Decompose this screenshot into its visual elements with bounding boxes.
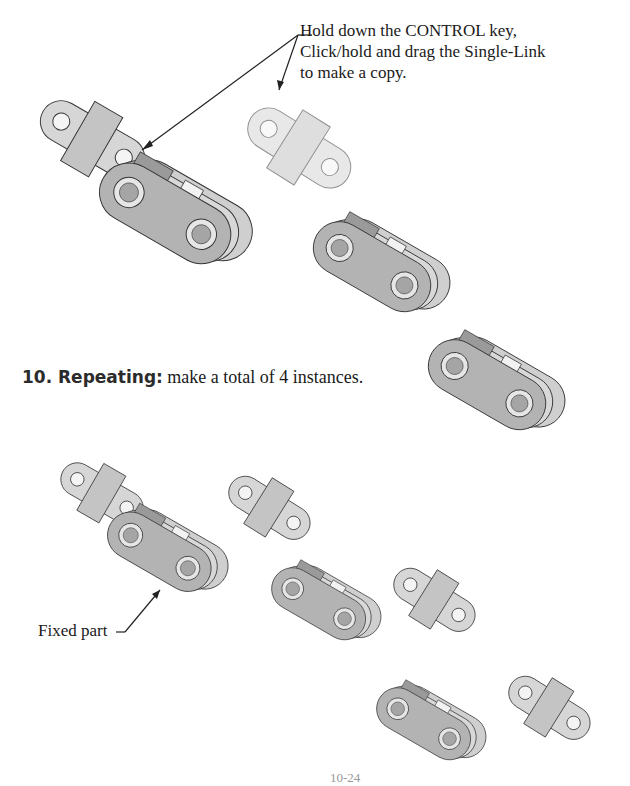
assembly-top (15, 82, 273, 284)
callout-text: Hold down the CONTROL key, Click/hold an… (300, 20, 546, 83)
fixed-part-leader (116, 590, 160, 632)
step-heading: 10. Repeating: (22, 367, 163, 387)
step-instruction: 10. Repeating: make a total of 4 instanc… (22, 367, 363, 388)
assembly-bottom-fixed (41, 448, 245, 607)
callout-line-3: to make a copy. (300, 62, 546, 83)
single-link-copy-ghost (233, 89, 366, 207)
double-link-copy-1 (304, 202, 460, 329)
double-link-instance-1 (264, 552, 389, 654)
callout-line-1: Hold down the CONTROL key, (300, 20, 546, 41)
single-link-instance-1 (217, 461, 322, 554)
single-link-instance-3 (497, 661, 602, 754)
page-number: 10-24 (330, 770, 360, 786)
fixed-part-label: Fixed part (38, 621, 107, 641)
double-link-instance-2 (369, 672, 494, 774)
double-link-copy-2 (419, 320, 575, 447)
single-link-instance-2 (382, 553, 487, 646)
callout-line-2: Click/hold and drag the Single-Link (300, 41, 546, 62)
step-text: make a total of 4 instances. (163, 367, 363, 387)
